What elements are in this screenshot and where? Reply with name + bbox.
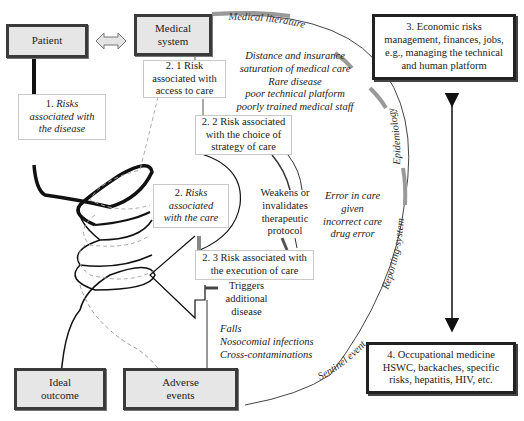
falls-line: Falls xyxy=(220,323,314,336)
occupational-line: risks, hepatitis, HIV, etc. xyxy=(389,374,492,387)
ideal-outcome-box: Ideal outcome xyxy=(14,368,106,410)
triggers-line: additional xyxy=(219,293,274,306)
risk-care-box: 2. Risks associated with the care xyxy=(153,184,229,228)
economic-line: e.g., managing the technical xyxy=(385,47,503,60)
occupational-medicine-box: 4. Occupational medicine HSWC, backaches… xyxy=(366,342,516,394)
economic-risks-box: 3. Economic risks management, finances, … xyxy=(372,14,516,80)
error-line: given xyxy=(315,203,390,216)
risk-access-box: 2. 1 Risk associated with access to care xyxy=(143,60,226,98)
access-factor: poor technical platform xyxy=(225,88,365,101)
access-factors-text: Distance and insurance saturation of med… xyxy=(225,50,365,114)
risk-care-line1: 2. Risks xyxy=(175,187,208,200)
risk-strategy-box: 2. 2 Risk associated with the choice of … xyxy=(195,115,292,155)
label-epidemiology: Epidemiology xyxy=(385,106,402,166)
occupational-line: HSWC, backaches, specific xyxy=(383,362,500,375)
ideal-outcome-line1: Ideal xyxy=(49,376,71,389)
label-medical-literature: Medical literature xyxy=(227,11,306,30)
risk-care-line3: with the care xyxy=(164,212,218,225)
risk-access-line3: access to care xyxy=(156,85,214,98)
risk-execution-box: 2. 3 Risk associated with the execution … xyxy=(195,250,314,280)
weakens-line: invalidates xyxy=(252,200,318,213)
risk-disease-box: 1. Risks associated with the disease xyxy=(18,94,106,140)
risk-strategy-line3: strategy of care xyxy=(211,141,276,154)
access-factor: Distance and insurance xyxy=(225,50,365,63)
access-factor: poorly trained medical staff xyxy=(225,101,365,114)
risk-execution-line1: 2. 3 Risk associated with xyxy=(202,252,307,265)
falls-infections-text: Falls Nosocomial infections Cross-contam… xyxy=(220,323,314,361)
occupational-title: 4. Occupational medicine xyxy=(387,349,495,362)
risk-care-number: 2. xyxy=(175,187,186,198)
risk-disease-text: Risks xyxy=(56,98,78,109)
access-factor: saturation of medical care xyxy=(225,63,365,76)
falls-line: Nosocomial infections xyxy=(220,336,314,349)
economic-title: 3. Economic risks xyxy=(406,21,482,34)
risk-disease-line3: the disease xyxy=(39,123,85,136)
care-trajectory xyxy=(79,97,175,400)
risk-care-line2: associated xyxy=(169,200,213,213)
medical-system-line2: system xyxy=(158,35,189,48)
bidirectional-arrow-icon xyxy=(96,33,126,49)
adverse-events-line1: Adverse xyxy=(162,376,199,389)
risk-disease-line2: associated with xyxy=(29,111,94,124)
access-factor: Rare disease xyxy=(225,76,365,89)
patient-box: Patient xyxy=(6,24,88,58)
ideal-outcome-line2: outcome xyxy=(41,389,79,402)
error-line: Error in care xyxy=(315,190,390,203)
risk-access-line2: associated with xyxy=(152,73,216,86)
weakens-line: Weakens or xyxy=(252,187,318,200)
risk-disease-number: 1. xyxy=(46,98,57,109)
triggers-disease-text: Triggers additional disease xyxy=(219,280,274,318)
error-line: drug error xyxy=(315,228,390,241)
risk-care-text: Risks xyxy=(185,187,207,198)
weakens-line: therapeutic xyxy=(252,213,318,226)
error-line: incorrect care xyxy=(315,216,390,229)
weakens-protocol-text: Weakens or invalidates therapeutic proto… xyxy=(252,187,318,238)
risk-disease-line1: 1. Risks xyxy=(46,98,79,111)
risk-strategy-line2: with the choice of xyxy=(206,129,282,142)
triggers-line: Triggers xyxy=(219,280,274,293)
adverse-events-box: Adverse events xyxy=(123,368,238,410)
falls-line: Cross-contaminations xyxy=(220,349,314,362)
care-error-text: Error in care given incorrect care drug … xyxy=(315,190,390,241)
patient-label: Patient xyxy=(32,34,63,47)
adverse-events-line2: events xyxy=(166,389,194,402)
label-sentinel-event: Sentinel event xyxy=(316,338,369,382)
risk-execution-line2: the execution of care xyxy=(211,265,299,278)
weakens-line: protocol xyxy=(252,225,318,238)
medical-system-line1: Medical xyxy=(155,22,191,35)
risk-access-line1: 2. 1 Risk xyxy=(166,60,204,73)
triggers-line: disease xyxy=(219,306,274,319)
economic-line: and human platform xyxy=(401,60,486,73)
medical-system-box: Medical system xyxy=(134,14,212,56)
risk-strategy-line1: 2. 2 Risk associated xyxy=(202,116,285,129)
economic-line: management, finances, jobs, xyxy=(384,34,503,47)
